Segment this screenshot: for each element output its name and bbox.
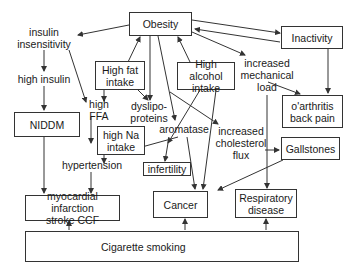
node-insulin-insensitivity: insulin insensitivity	[14, 26, 74, 50]
node-hypertension: hypertension	[62, 158, 122, 171]
node-infertility: infertility	[143, 162, 191, 176]
node-respiratory-disease: Respiratory disease	[235, 189, 297, 218]
node-oarthritis-back-pain: o'arthritis back pain	[282, 95, 343, 128]
node-high-alcohol-intake: High alcohol intake	[177, 62, 235, 90]
node-high-ffa: high FFA	[78, 103, 120, 116]
node-niddm: NIDDM	[14, 112, 80, 137]
node-high-na-intake: high Na intake	[97, 126, 145, 155]
node-increased-mechanical-load: increased mechanical load	[238, 56, 296, 94]
node-high-fat-intake: High fat intake	[95, 61, 145, 90]
node-gallstones: Gallstones	[281, 137, 340, 160]
node-dyslipoproteins: dyslipo- proteins	[128, 100, 170, 124]
node-obesity: Obesity	[129, 12, 192, 36]
node-high-insulin: high insulin	[14, 73, 74, 85]
node-myocardial-infarction-stroke-ccf: myocardial infarction stroke CCF	[25, 195, 120, 221]
node-cigarette-smoking: Cigarette smoking	[25, 231, 299, 262]
node-inactivity: Inactivity	[281, 26, 343, 49]
node-cancer: Cancer	[153, 191, 208, 218]
node-aromatase: aromatase	[160, 122, 208, 135]
node-increased-cholesterol-flux: increased cholesterol flux	[212, 124, 270, 162]
